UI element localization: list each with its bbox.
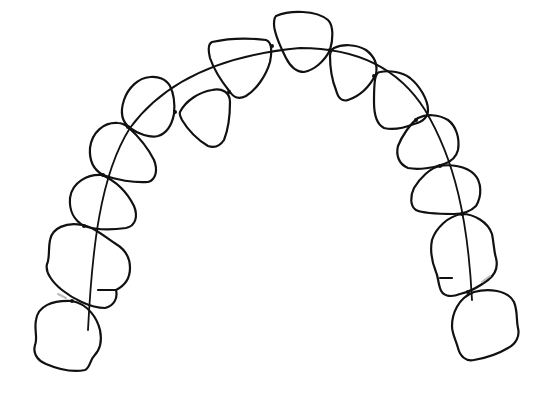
tooth-right-canine: [374, 71, 428, 129]
tooth-right-central-incisor: [274, 12, 332, 72]
tooth-right-molar-2: [452, 290, 519, 360]
tooth-left-premolar-1: [90, 123, 156, 182]
ghost-mark-left: [58, 294, 66, 298]
tooth-right-premolar-2: [411, 165, 480, 214]
tooth-right-lateral-incisor: [330, 45, 377, 100]
tooth-right-premolar-1: [397, 115, 458, 169]
tooth-left-molar-2: [34, 301, 100, 371]
dental-arch-diagram: Dental arch outline diagram: [0, 0, 539, 394]
arch-svg: [0, 0, 539, 394]
tooth-left-lateral-incisor: [180, 90, 230, 147]
